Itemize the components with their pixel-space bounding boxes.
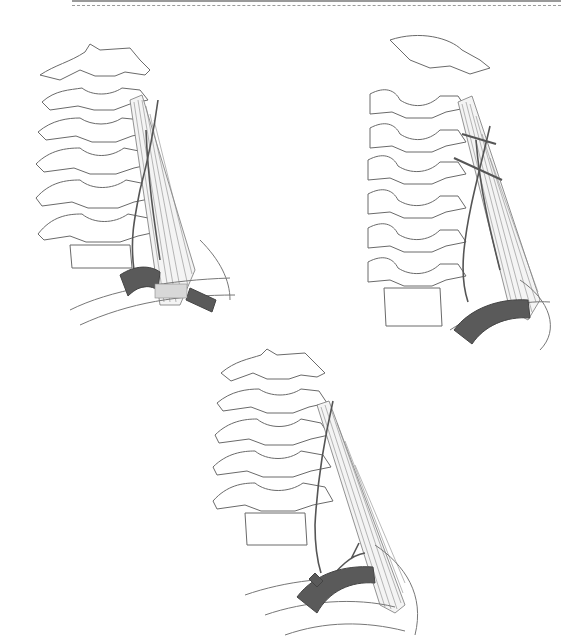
subclavian-artery bbox=[120, 267, 160, 296]
subclavian-artery-distal bbox=[186, 288, 216, 312]
cervical-vertebrae bbox=[368, 35, 490, 326]
subclavian-artery bbox=[454, 300, 530, 344]
header-dashed-rule bbox=[72, 5, 561, 6]
illustration-top-right bbox=[350, 30, 561, 350]
illustration-top-left bbox=[30, 40, 260, 340]
muscle-retraction-band bbox=[155, 284, 187, 298]
header-rule bbox=[72, 0, 561, 2]
subclavian-artery bbox=[297, 567, 375, 613]
illustration-bottom-center bbox=[205, 345, 430, 639]
